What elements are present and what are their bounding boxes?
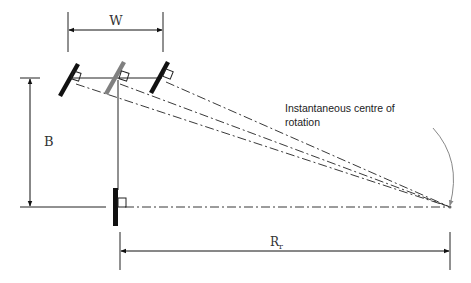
radius-lines <box>76 82 450 207</box>
icr-label-line2: rotation <box>285 116 320 128</box>
wheelbase-dimension: B <box>20 78 106 207</box>
radius-line-inner <box>166 82 450 207</box>
icr-point <box>449 206 452 209</box>
b-label: B <box>44 134 54 149</box>
icr-label-line1: Instantaneous centre of <box>285 102 395 114</box>
r-label: Rr <box>270 235 283 251</box>
steering-diagram: W B Rr Instan <box>0 0 471 283</box>
right-angle-marker <box>119 71 129 81</box>
outer-left-wheel <box>60 64 81 96</box>
track-width-dimension: W <box>68 12 163 52</box>
rear-wheel <box>113 188 126 226</box>
icr-pointer-arrow <box>433 128 454 205</box>
wheel-rear <box>113 188 118 226</box>
right-angle-marker <box>118 198 126 207</box>
turn-radius-dimension: Rr <box>120 232 450 270</box>
w-label: W <box>109 13 123 28</box>
icr-annotation: Instantaneous centre of rotation <box>285 102 454 209</box>
